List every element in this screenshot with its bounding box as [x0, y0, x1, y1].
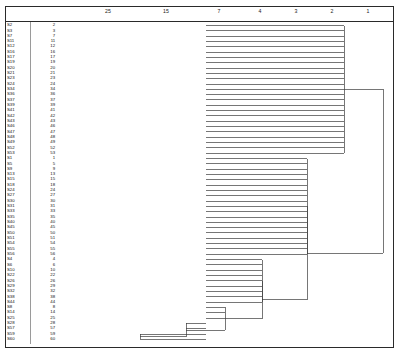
axis-tick-label: 7 — [218, 8, 221, 15]
dendrogram-tree — [6, 22, 393, 344]
dendrogram-figure: 251574321 S2S3S7S11S12S16S17S19S20S21S23… — [0, 0, 399, 354]
axis-tick-label: 15 — [163, 8, 169, 15]
distance-axis: 251574321 — [6, 7, 393, 22]
axis-tick-label: 2 — [331, 8, 334, 15]
axis-tick-label: 4 — [259, 8, 262, 15]
dendrogram-plot — [6, 22, 393, 344]
axis-tick-label: 3 — [295, 8, 298, 15]
axis-tick-label: 1 — [367, 8, 370, 15]
axis-tick-label: 25 — [105, 8, 111, 15]
